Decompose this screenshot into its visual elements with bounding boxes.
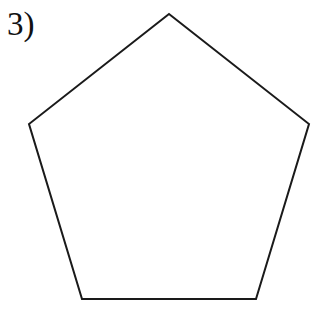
pentagon-shape [29, 14, 309, 299]
pentagon-figure [0, 0, 313, 313]
